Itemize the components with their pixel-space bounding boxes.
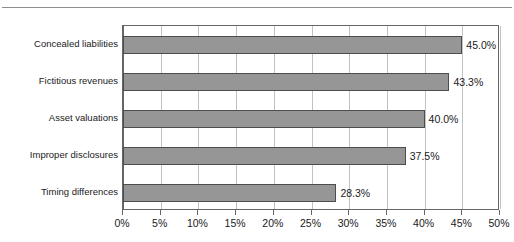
x-tick-label: 25%	[300, 218, 321, 229]
x-tick-label: 5%	[152, 218, 167, 229]
x-tick-label: 45%	[451, 218, 472, 229]
chart-page: Concealed liabilitiesFictitious revenues…	[0, 0, 514, 242]
bar-value-label: 28.3%	[340, 187, 370, 198]
x-tick	[461, 210, 462, 215]
bar[interactable]	[123, 73, 449, 91]
plot-area: 45.0%43.3%40.0%37.5%28.3%	[122, 25, 499, 210]
x-tick-label: 30%	[338, 218, 359, 229]
x-tick	[499, 210, 500, 215]
bar[interactable]	[123, 110, 425, 128]
category-label: Improper disclosures	[0, 150, 118, 160]
x-tick	[311, 210, 312, 215]
category-axis-labels: Concealed liabilitiesFictitious revenues…	[0, 25, 118, 210]
category-label: Asset valuations	[0, 113, 118, 123]
bar-row: 37.5%	[123, 147, 500, 165]
x-tick	[273, 210, 274, 215]
x-tick-label: 20%	[262, 218, 283, 229]
x-tick	[122, 210, 123, 215]
x-tick-label: 15%	[225, 218, 246, 229]
bar[interactable]	[123, 147, 406, 165]
x-tick	[235, 210, 236, 215]
bar-value-label: 43.3%	[453, 76, 483, 87]
x-tick	[160, 210, 161, 215]
x-tick	[424, 210, 425, 215]
bar-row: 28.3%	[123, 184, 500, 202]
x-tick-label: 10%	[187, 218, 208, 229]
x-tick	[386, 210, 387, 215]
bar-chart: Concealed liabilitiesFictitious revenues…	[0, 0, 514, 242]
x-tick-label: 50%	[488, 218, 509, 229]
category-label: Concealed liabilities	[0, 39, 118, 49]
bar-value-label: 45.0%	[466, 39, 496, 50]
category-label: Fictitious revenues	[0, 76, 118, 86]
gridline-50%	[500, 26, 501, 209]
bar-value-label: 37.5%	[410, 150, 440, 161]
bar[interactable]	[123, 36, 462, 54]
x-tick	[348, 210, 349, 215]
bar-row: 43.3%	[123, 73, 500, 91]
bar-value-label: 40.0%	[429, 113, 459, 124]
x-tick-label: 0%	[114, 218, 129, 229]
x-tick	[197, 210, 198, 215]
bar-row: 45.0%	[123, 36, 500, 54]
category-label: Timing differences	[0, 187, 118, 197]
x-tick-label: 40%	[413, 218, 434, 229]
bar[interactable]	[123, 184, 336, 202]
x-axis-ticks	[122, 210, 499, 216]
bar-row: 40.0%	[123, 110, 500, 128]
x-tick-label: 35%	[375, 218, 396, 229]
